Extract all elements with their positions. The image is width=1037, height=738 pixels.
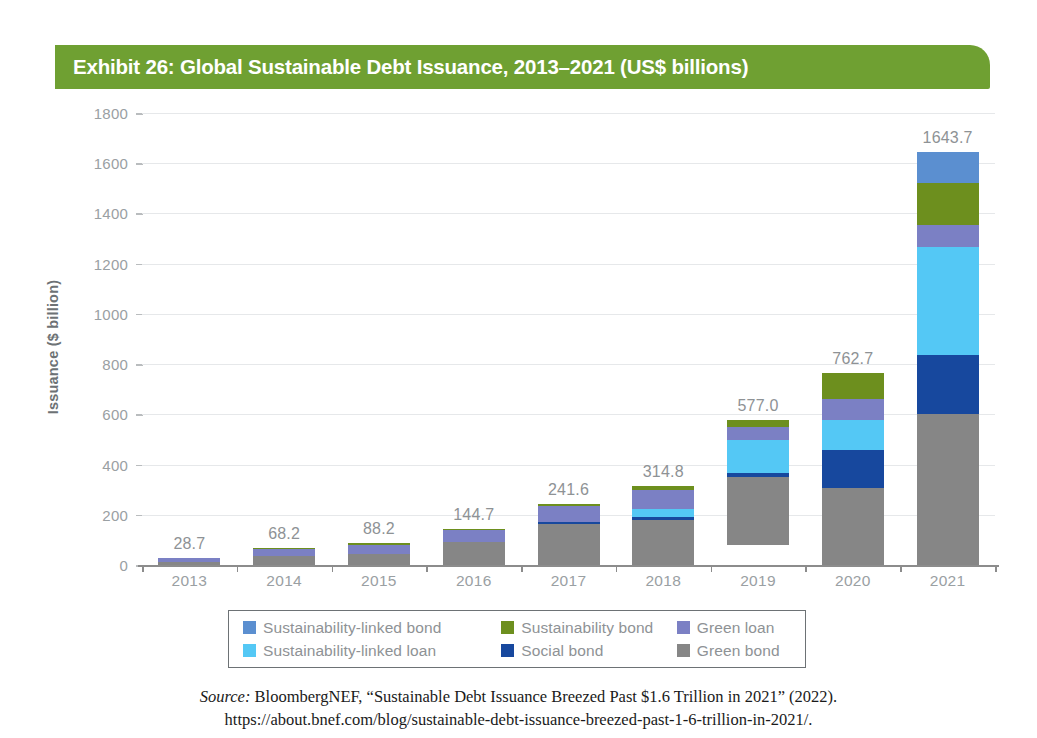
x-axis-line: [138, 565, 999, 567]
x-axis-tick-label: 2018: [615, 572, 711, 590]
bar-segment: [348, 545, 410, 554]
bar-segment: [443, 530, 505, 541]
x-axis-tick-label: 2021: [900, 572, 996, 590]
legend-swatch-icon: [677, 644, 690, 657]
bar-segment: [727, 440, 789, 473]
bar-segment: [917, 355, 979, 413]
legend-row-1: Sustainability-linked bondSustainability…: [243, 616, 805, 639]
legend-item[interactable]: Green bond: [677, 642, 805, 660]
bar-value-label: 577.0: [688, 397, 828, 415]
x-axis-tick-mark: [711, 565, 713, 572]
x-axis-tick-mark: [237, 565, 239, 572]
legend-label: Green loan: [697, 619, 775, 637]
x-axis-tick-mark: [332, 565, 334, 572]
bar-group: 144.7: [443, 113, 505, 565]
bar-stack: [632, 486, 694, 565]
bar-segment: [917, 247, 979, 355]
y-axis-title: Issuance ($ billion): [45, 197, 61, 497]
bar-group: 762.7: [822, 113, 884, 565]
bar-segment: [727, 427, 789, 440]
bar-segment: [727, 477, 789, 545]
legend-swatch-icon: [243, 644, 256, 657]
x-axis-tick-mark: [142, 565, 144, 572]
bar-group: 314.8: [632, 113, 694, 565]
y-axis-tick-label: 1600: [68, 155, 128, 172]
source-note: Source: BloombergNEF, “Sustainable Debt …: [0, 685, 1037, 732]
bar-segment: [443, 542, 505, 565]
x-axis-tick-mark: [616, 565, 618, 572]
y-axis-tick-label: 1800: [68, 105, 128, 122]
bar-segment: [538, 524, 600, 565]
bar-group: 68.2: [253, 113, 315, 565]
bar-value-label: 241.6: [499, 481, 639, 499]
y-axis-tick-label: 0: [68, 557, 128, 574]
bar-segment: [917, 152, 979, 182]
bar-group: 88.2: [348, 113, 410, 565]
bar-segment: [917, 183, 979, 225]
y-axis-tick-label: 1200: [68, 255, 128, 272]
bar-segment: [538, 506, 600, 522]
bar-stack: [538, 504, 600, 565]
bar-value-label: 1643.7: [878, 129, 1018, 147]
bar-stack: [443, 529, 505, 565]
x-axis-tick-label: 2013: [141, 572, 237, 590]
legend-label: Sustainability bond: [521, 619, 653, 637]
bar-segment: [822, 420, 884, 450]
plot-area: 28.768.288.2144.7241.6314.8577.0762.7164…: [142, 113, 995, 565]
bar-stack: [348, 543, 410, 565]
y-axis-tick-label: 200: [68, 506, 128, 523]
legend-item[interactable]: Sustainability-linked bond: [243, 619, 501, 637]
x-axis-tick-mark: [805, 565, 807, 572]
bar-group: 28.7: [158, 113, 220, 565]
legend-item[interactable]: Sustainability-linked loan: [243, 642, 501, 660]
bar-segment: [917, 225, 979, 248]
chart-container: Issuance ($ billion) 1800160014001200100…: [0, 0, 1037, 738]
x-axis-tick-label: 2017: [521, 572, 617, 590]
bar-segment: [917, 414, 979, 565]
bar-group: 241.6: [538, 113, 600, 565]
x-axis-tick-mark: [426, 565, 428, 572]
legend-item[interactable]: Social bond: [501, 642, 677, 660]
y-axis-tick-label: 1000: [68, 305, 128, 322]
bar-segment: [253, 556, 315, 565]
bar-stack: [158, 558, 220, 565]
x-axis-tick-mark: [521, 565, 523, 572]
bar-segment: [632, 520, 694, 565]
x-axis-tick-label: 2016: [426, 572, 522, 590]
source-label: Source:: [200, 687, 251, 706]
legend-item[interactable]: Green loan: [677, 619, 805, 637]
legend-label: Sustainability-linked loan: [263, 642, 436, 660]
x-axis-tick-label: 2019: [710, 572, 806, 590]
bar-segment: [348, 554, 410, 565]
y-axis-tick-label: 600: [68, 406, 128, 423]
bar-value-label: 762.7: [783, 350, 923, 368]
legend-label: Sustainability-linked bond: [263, 619, 441, 637]
y-axis-tick-label: 1400: [68, 205, 128, 222]
bar-value-label: 144.7: [404, 506, 544, 524]
x-axis-tick-label: 2020: [805, 572, 901, 590]
bar-segment: [822, 373, 884, 398]
legend-label: Social bond: [521, 642, 603, 660]
bar-segment: [727, 420, 789, 427]
source-url: https://about.bnef.com/blog/sustainable-…: [0, 708, 1037, 731]
legend-swatch-icon: [501, 644, 514, 657]
bar-segment: [822, 488, 884, 565]
bar-segment: [822, 450, 884, 488]
bar-stack: [822, 373, 884, 565]
bar-stack: [253, 548, 315, 565]
legend-item[interactable]: Sustainability bond: [501, 619, 677, 637]
bar-stack: [727, 420, 789, 565]
legend-row-2: Sustainability-linked loanSocial bondGre…: [243, 639, 805, 662]
bar-group: 577.0: [727, 113, 789, 565]
bar-value-label: 314.8: [593, 463, 733, 481]
bar-group: 1643.7: [917, 113, 979, 565]
x-axis-tick-label: 2015: [331, 572, 427, 590]
legend-swatch-icon: [677, 621, 690, 634]
bar-segment: [822, 399, 884, 420]
y-axis-tick-label: 400: [68, 456, 128, 473]
legend-swatch-icon: [501, 621, 514, 634]
y-axis-tick-label: 800: [68, 356, 128, 373]
bar-segment: [632, 509, 694, 517]
legend-label: Green bond: [697, 642, 780, 660]
x-axis-tick-mark: [900, 565, 902, 572]
